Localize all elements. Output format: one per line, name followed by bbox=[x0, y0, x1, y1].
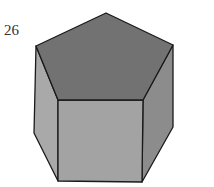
prism-front-face bbox=[58, 100, 143, 182]
pentagonal-prism-figure bbox=[0, 0, 214, 187]
